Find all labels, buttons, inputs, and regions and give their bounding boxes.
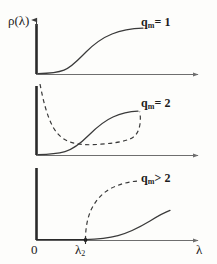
panel-qm-1 [36, 20, 198, 75]
panel-label-value: 1 [165, 15, 171, 29]
panel-label-qm-2: qm= 2 [141, 97, 171, 111]
x-axis-label: λ [196, 243, 202, 256]
curve-dashed-panel-2 [40, 84, 140, 145]
lambda2-sub: 2 [81, 249, 85, 258]
panel-label-operator: = [155, 15, 162, 29]
panel-label-operator: = [155, 96, 162, 110]
panel-label-qm-gt-2: qm> 2 [141, 172, 171, 186]
panel-qm-gt-2 [36, 168, 198, 244]
panel-label-sub: m [148, 21, 155, 30]
panel-label-value: 2 [165, 96, 171, 110]
panel-label-sub: m [148, 102, 155, 111]
curve-solid-panel-2 [38, 111, 138, 154]
curve-solid-panel-1 [38, 28, 143, 73]
panel-label-sub: m [148, 177, 155, 186]
x-axis-tick-origin: 0 [31, 243, 38, 256]
figure-root: ρ(λ) qm= 1 qm= 2 qm> 2 0 λ2 λ [0, 0, 217, 264]
panel-qm-2 [36, 84, 198, 156]
panel-label-base: q [141, 15, 148, 29]
curve-solid-panel-3 [85, 210, 170, 239]
y-axis-label: ρ(λ) [8, 14, 29, 27]
panel-label-operator: > [155, 171, 162, 185]
x-axis-tick-lambda2: λ2 [75, 243, 85, 258]
panel-label-value: 2 [165, 171, 171, 185]
panel-label-qm-1: qm= 1 [141, 16, 171, 30]
plot-canvas [0, 0, 217, 264]
panel-label-base: q [141, 96, 148, 110]
panel-label-base: q [141, 171, 148, 185]
